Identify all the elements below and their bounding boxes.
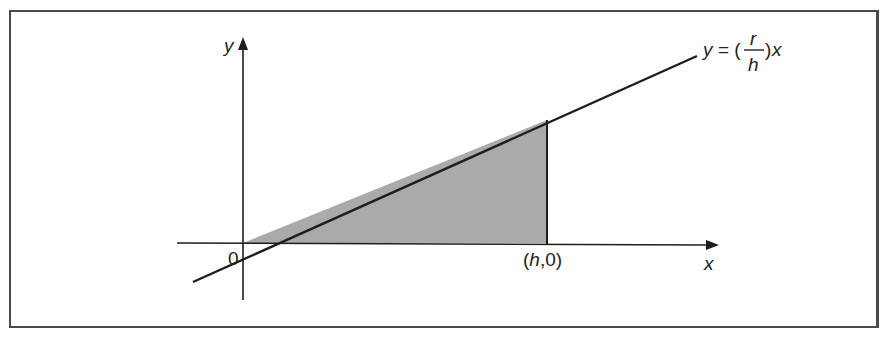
- x-axis-arrow-icon: [706, 240, 719, 250]
- equation-label: y = ( r h ) x: [701, 28, 783, 75]
- equation-equals: = (: [718, 39, 741, 60]
- x-axis: [177, 243, 708, 245]
- y-axis-label: y: [222, 35, 235, 56]
- equation-y: y: [701, 39, 714, 60]
- x-axis-label: x: [703, 253, 715, 274]
- y-axis-arrow-icon: [238, 37, 248, 50]
- equation-denominator: h: [748, 54, 759, 75]
- equation-x: x: [771, 39, 783, 60]
- origin-label: 0: [228, 248, 239, 269]
- diagram-canvas: y x 0 (h,0) y = ( r h ) x: [0, 0, 887, 342]
- equation-close: ): [765, 39, 771, 60]
- equation-numerator: r: [750, 28, 757, 49]
- shaded-triangle: [243, 120, 547, 243]
- point-h0-label: (h,0): [523, 249, 562, 270]
- line-y-eq-rx-over-h: [193, 56, 697, 282]
